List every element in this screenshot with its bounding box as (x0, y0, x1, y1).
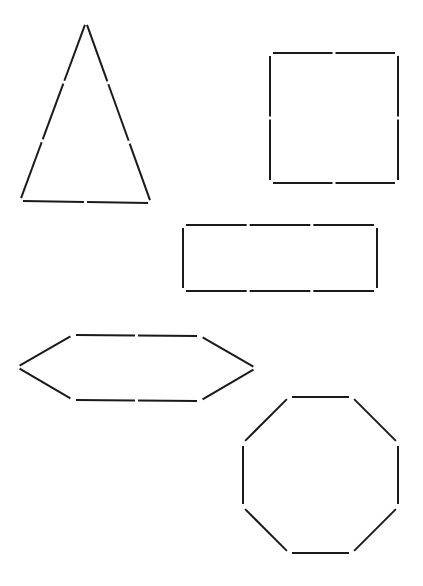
triangle-edge-segment (21, 142, 42, 198)
octagon-edge-segment (354, 399, 396, 441)
octagon-edge-segment (245, 509, 287, 551)
shapes-canvas (0, 0, 423, 586)
triangle-edge-segment (87, 202, 148, 203)
octagon-edge-segment (245, 399, 287, 441)
octagon-edge-segment (354, 509, 396, 551)
octagon-shape (243, 397, 398, 553)
triangle-edge-segment (23, 201, 84, 202)
triangle-edge-segment (130, 144, 150, 201)
triangle-shape (21, 25, 150, 203)
hexagon-edge-segment (203, 337, 254, 366)
triangle-edge-segment (87, 25, 107, 82)
hexagon-edge-segment (20, 369, 71, 399)
hexagon-edge-segment (203, 370, 254, 400)
hexagon-edge-segment (20, 336, 71, 365)
hexagon-shape (20, 335, 254, 401)
triangle-edge-segment (43, 84, 64, 140)
rectangle-shape (183, 225, 377, 291)
square-shape (270, 53, 398, 183)
triangle-edge-segment (64, 25, 85, 81)
triangle-edge-segment (108, 84, 128, 141)
